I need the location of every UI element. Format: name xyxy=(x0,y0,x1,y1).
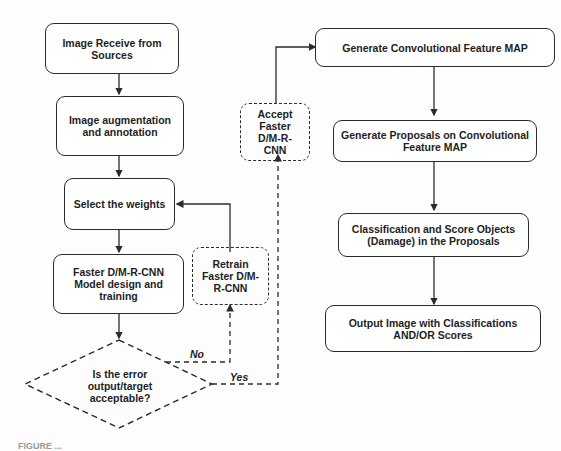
node-feature-map: Generate Convolutional Feature MAP xyxy=(315,28,555,67)
node-model-design-training: Faster D/M-R-CNN Model design and traini… xyxy=(53,254,184,314)
node-image-augmentation: Image augmentation and annotation xyxy=(56,96,184,156)
edge-label-yes: Yes xyxy=(230,371,248,383)
node-model-design-training-label: Faster D/M-R-CNN Model design and traini… xyxy=(60,266,177,302)
decision-node-label: Is the error output/target acceptable? xyxy=(70,368,170,404)
node-accept: Accept Faster D/M-R-CNN xyxy=(240,103,310,161)
node-output-image-label: Output Image with Classifications AND/OR… xyxy=(332,317,534,341)
node-retrain-label: Retrain Faster D/M-R-CNN xyxy=(199,258,262,294)
node-feature-map-label: Generate Convolutional Feature MAP xyxy=(342,42,528,54)
edge-label-no: No xyxy=(190,348,204,360)
node-select-weights: Select the weights xyxy=(64,178,175,230)
node-proposals-label: Generate Proposals on Convolutional Feat… xyxy=(340,129,530,153)
figure-caption: FIGURE ... xyxy=(18,441,62,451)
node-output-image: Output Image with Classifications AND/OR… xyxy=(325,305,541,352)
node-image-receive-label: Image Receive from Sources xyxy=(52,37,172,61)
node-image-augmentation-label: Image augmentation and annotation xyxy=(63,114,177,138)
node-select-weights-label: Select the weights xyxy=(74,198,166,210)
node-retrain: Retrain Faster D/M-R-CNN xyxy=(192,247,269,305)
node-image-receive: Image Receive from Sources xyxy=(45,23,179,74)
node-proposals: Generate Proposals on Convolutional Feat… xyxy=(333,120,537,162)
flowchart-canvas: Image Receive from Sources Image augment… xyxy=(0,0,561,451)
node-classification: Classification and Score Objects (Damage… xyxy=(338,213,529,257)
node-accept-label: Accept Faster D/M-R-CNN xyxy=(247,108,303,156)
node-classification-label: Classification and Score Objects (Damage… xyxy=(345,223,522,247)
